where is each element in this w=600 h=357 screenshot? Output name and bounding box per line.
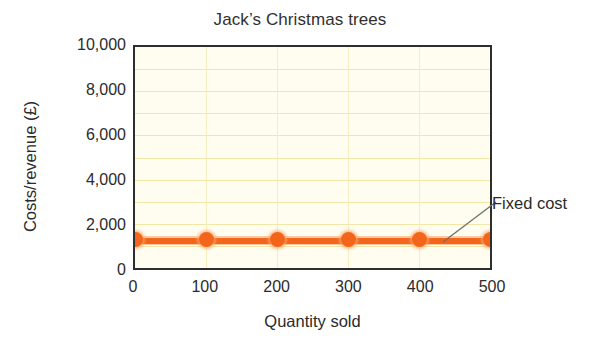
y-tick-label: 6,000 <box>48 126 126 144</box>
y-tick-label: 10,000 <box>48 36 126 54</box>
x-tick-label: 0 <box>129 278 138 296</box>
data-point-marker <box>199 232 214 247</box>
y-axis-label: Costs/revenue (£) <box>21 67 40 267</box>
annotation-label-fixed-cost: Fixed cost <box>492 194 567 213</box>
y-axis-tick-labels: 10,000 8,000 6,000 4,000 2,000 0 <box>44 45 126 270</box>
x-tick-label: 500 <box>479 278 506 296</box>
x-tick-label: 400 <box>407 278 434 296</box>
x-tick-label: 100 <box>191 278 218 296</box>
data-point-marker <box>412 232 427 247</box>
data-point-marker <box>341 232 356 247</box>
y-tick-label: 2,000 <box>48 216 126 234</box>
chart-figure: Jack’s Christmas trees 10,000 8,000 6,00… <box>0 0 600 357</box>
plot-area <box>133 45 492 270</box>
data-point-marker <box>270 232 285 247</box>
x-tick-label: 300 <box>335 278 362 296</box>
y-tick-label: 8,000 <box>48 81 126 99</box>
x-tick-label: 200 <box>263 278 290 296</box>
chart-title: Jack’s Christmas trees <box>0 10 600 30</box>
data-point-marker <box>133 232 143 247</box>
x-axis-label: Quantity sold <box>133 312 492 331</box>
series-line <box>135 238 490 244</box>
series-fixed-cost <box>135 47 490 268</box>
y-tick-label: 0 <box>48 261 126 279</box>
x-axis-tick-labels: 0 100 200 300 400 500 <box>133 278 492 300</box>
y-tick-label: 4,000 <box>48 171 126 189</box>
